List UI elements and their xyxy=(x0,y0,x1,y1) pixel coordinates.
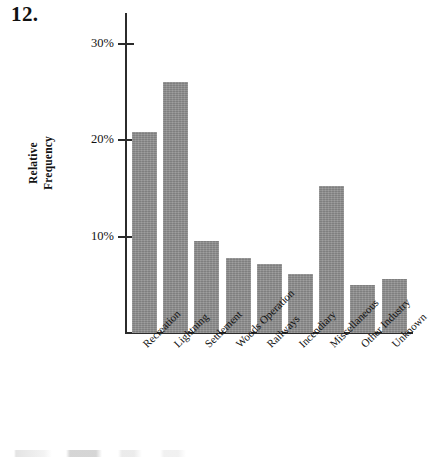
bar xyxy=(163,82,188,333)
scan-artifact xyxy=(0,444,426,462)
y-axis-tick-mark xyxy=(118,43,134,45)
y-axis-tick-label: 30% xyxy=(68,37,114,49)
y-axis-tick-label: 20% xyxy=(68,133,114,145)
bar xyxy=(132,132,157,333)
y-axis-line xyxy=(125,13,127,334)
y-axis-tick-label: 10% xyxy=(68,230,114,242)
